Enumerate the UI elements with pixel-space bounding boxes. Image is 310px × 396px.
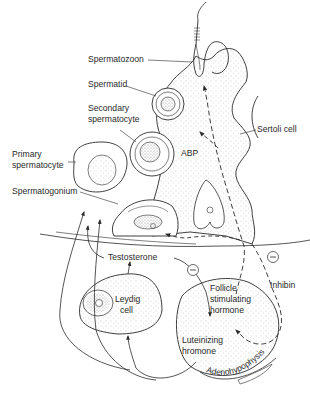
abp-label: ABP — [181, 148, 198, 159]
spermatogonium-cell — [112, 200, 178, 236]
lh-label-2: hromone — [182, 346, 216, 357]
sertoli-cell-label: Sertoli cell — [257, 124, 297, 135]
lh-label-1: Luteinizing — [182, 335, 223, 346]
testosterone-from-leydig-arrow — [128, 262, 130, 274]
inhibition-icon-testosterone — [188, 265, 199, 276]
secondary-spermatocyte-label-1: Secondary — [88, 103, 129, 114]
primary-spermatocyte-label-2: spermatocyte — [12, 160, 64, 171]
secondary-spermatocyte-cell — [130, 132, 174, 176]
spermatozoon-label: Spermatozoon — [88, 54, 144, 65]
primary-spermatocyte-label-1: Primary — [12, 149, 42, 160]
spermatogenesis-diagram: Adenohypophysis Spermatozoon Spermatid S… — [0, 0, 310, 396]
inhibin-label: Inhibin — [270, 280, 295, 291]
diagram-canvas: Adenohypophysis — [0, 0, 310, 396]
spermatid-label: Spermatid — [88, 79, 127, 90]
spermatozoon-shape — [198, 2, 206, 20]
inhibition-icon-inhibin — [268, 252, 279, 263]
leydig-cell-label-2: cell — [120, 305, 133, 316]
secondary-spermatocyte-label-2: spermatocyte — [88, 114, 140, 125]
testosterone-label: Testosterone — [108, 252, 157, 263]
fsh-label-1: Follicle — [210, 283, 237, 294]
primary-spermatocyte-cell — [74, 142, 127, 192]
fsh-label-2: stimulating — [210, 294, 251, 305]
spermatogonium-label: Spermatogonium — [12, 186, 77, 197]
leydig-cell-label-1: Leydig — [115, 294, 140, 305]
fsh-label-3: hormone — [210, 305, 244, 316]
spermatid-cell — [152, 88, 184, 120]
